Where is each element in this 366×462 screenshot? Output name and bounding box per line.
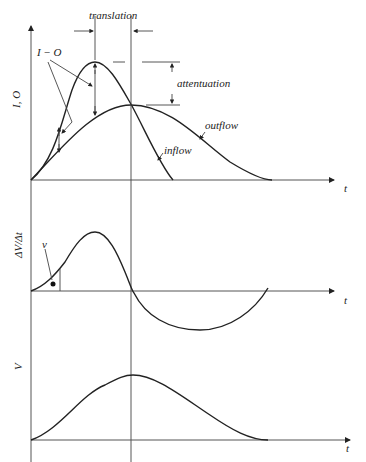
io-axis-label: I, O (10, 91, 22, 109)
panel-storage: V t (12, 362, 350, 454)
v-pointer (45, 249, 52, 280)
t-label-3: t (346, 442, 350, 454)
outflow-pointer (200, 132, 205, 139)
inflow-curve (31, 62, 173, 180)
v-marker-label: v (42, 238, 47, 250)
outflow-label: outflow (205, 119, 239, 131)
v-axis-label: V (12, 362, 24, 370)
i-minus-o-pointer-early-b (62, 122, 72, 133)
storage-curve (31, 375, 268, 440)
hydrograph-diagram: translation attentuation I − O inflow ou… (0, 0, 366, 462)
translation-label: translation (89, 9, 138, 21)
outflow-curve (31, 105, 272, 180)
v-dot (51, 282, 56, 287)
t-label-2: t (344, 294, 348, 306)
dvdt-axis-label: ΔV/Δt (12, 231, 24, 259)
inflow-label: inflow (164, 144, 192, 156)
dvdt-curve (31, 232, 268, 330)
attenuation-label: attentuation (177, 77, 231, 89)
i-minus-o-label: I − O (36, 46, 62, 58)
t-label-1: t (344, 182, 348, 194)
